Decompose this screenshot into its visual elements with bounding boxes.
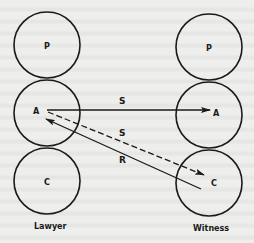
lawyer-column-label: Lawyer [34, 222, 67, 231]
diagram-canvas: P A C Lawyer P A C Witness S S R [0, 0, 254, 243]
lawyer-parent-label: P [44, 41, 50, 51]
lawyer-child-label: C [44, 177, 50, 187]
transaction-diagram: P A C Lawyer P A C Witness S S R [0, 0, 254, 243]
witness-adult-label: A [213, 108, 220, 118]
witness-child-circle [176, 150, 242, 216]
stimulus-label: S [119, 96, 125, 106]
witness-parent-label: P [206, 43, 212, 53]
edge-stimulus-adult-to-child: S [48, 112, 204, 175]
witness-adult-circle [176, 82, 242, 148]
stimulus-label-2: S [119, 128, 125, 138]
lawyer-column: P A C Lawyer [14, 12, 80, 231]
lawyer-adult-label: A [33, 106, 40, 116]
witness-child-label: C [211, 178, 217, 188]
dashed-arrow [48, 112, 204, 175]
edge-stimulus-adult-to-adult: S [47, 96, 210, 110]
response-label: R [119, 155, 126, 165]
witness-column: P A C Witness [176, 14, 242, 233]
witness-column-label: Witness [193, 224, 229, 233]
lawyer-adult-circle [14, 80, 80, 146]
